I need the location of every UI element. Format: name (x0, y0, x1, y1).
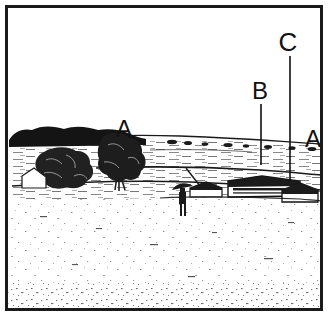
scene-group (7, 7, 321, 309)
label-b: B (252, 77, 268, 104)
landscape-illustration: A B C A (0, 0, 328, 316)
label-a-left: A (116, 115, 132, 142)
figure-leg-left (180, 204, 182, 216)
label-a-right: A (305, 125, 321, 152)
figure-leg-right (184, 204, 186, 216)
foreground-field-near-texture (7, 283, 321, 309)
figure-head (180, 188, 185, 192)
label-c: C (279, 27, 298, 57)
figure-container: A B C A (0, 0, 328, 316)
figure-body (179, 192, 186, 204)
sky-region (7, 7, 321, 142)
